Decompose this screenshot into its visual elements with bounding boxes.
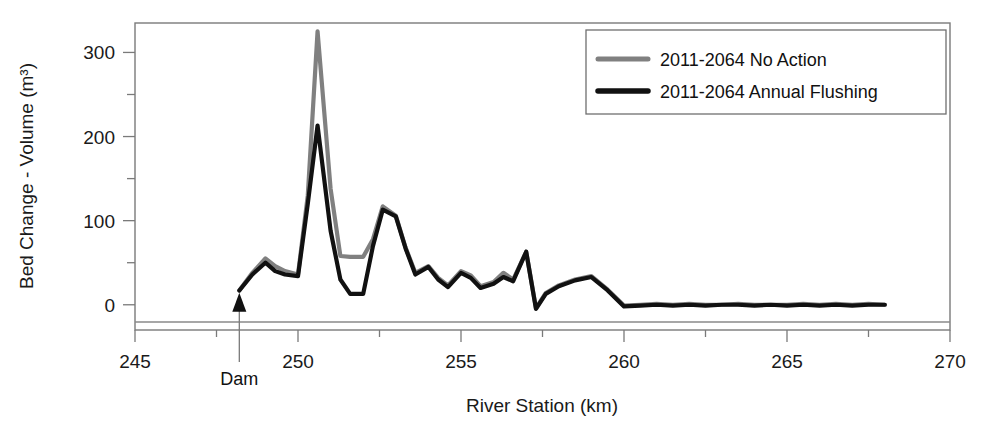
x-axis-title: River Station (km)	[466, 395, 618, 416]
dam-annotation-label: Dam	[220, 369, 258, 389]
x-axis-ticks: 245250255260265270	[119, 330, 966, 372]
legend-label-annual-flushing: 2011-2064 Annual Flushing	[660, 82, 878, 102]
x-tick-label: 255	[445, 351, 477, 372]
y-axis-ticks: 0100200300	[83, 42, 135, 315]
dam-arrow-icon	[232, 293, 246, 362]
legend-label-no-action: 2011-2064 No Action	[660, 50, 827, 70]
x-tick-label: 265	[771, 351, 803, 372]
chart-canvas: 0100200300 245250255260265270 Dam River …	[0, 0, 992, 425]
y-tick-label: 300	[83, 42, 115, 63]
y-tick-label: 0	[104, 295, 115, 316]
x-tick-label: 270	[934, 351, 966, 372]
x-tick-label: 250	[282, 351, 314, 372]
chart-legend: 2011-2064 No Action 2011-2064 Annual Flu…	[586, 30, 946, 114]
y-axis-title: Bed Change - Volume (m³)	[16, 63, 37, 289]
x-tick-label: 245	[119, 351, 151, 372]
x-tick-label: 260	[608, 351, 640, 372]
bed-change-volume-chart: 0100200300 245250255260265270 Dam River …	[0, 0, 992, 425]
y-tick-label: 200	[83, 127, 115, 148]
y-tick-label: 100	[83, 211, 115, 232]
